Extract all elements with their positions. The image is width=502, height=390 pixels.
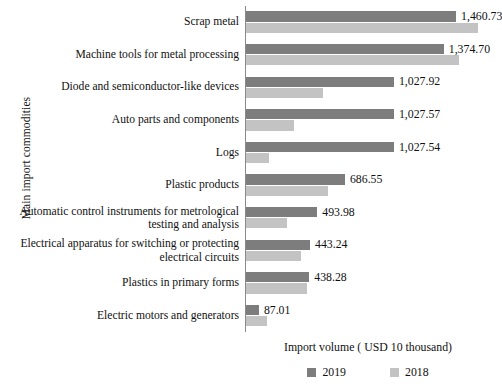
legend-item: 2018 [390, 366, 429, 378]
legend-label: 2018 [405, 366, 429, 378]
category-label: Auto parts and components [14, 113, 239, 126]
bar-group: 443.24 [246, 234, 490, 267]
x-axis-title: Import volume ( USD 10 thousand) [245, 340, 491, 355]
category-label: Electric motors and generators [14, 309, 239, 322]
chart-category-row: Plastics in primary forms438.28 [0, 267, 491, 300]
chart-category-row: Scrap metal1,460.73 [0, 6, 491, 39]
category-label: Logs [14, 146, 239, 159]
bar-2019 [246, 174, 345, 184]
chart-category-row: Machine tools for metal processing1,374.… [0, 39, 491, 72]
bar-group: 1,027.54 [246, 136, 490, 169]
bar-2018 [246, 88, 323, 98]
chart-category-row: Plastic products686.55 [0, 169, 491, 202]
bar-2018 [246, 283, 306, 293]
legend-swatch-icon [390, 368, 399, 377]
category-label: Diode and semiconductor-like devices [14, 81, 239, 94]
category-label: Machine tools for metal processing [14, 48, 239, 61]
bar-value-label: 1,460.73 [461, 9, 502, 24]
bar-group: 1,027.92 [246, 71, 490, 104]
bar-value-label: 1,027.57 [399, 107, 440, 122]
bar-2019 [246, 207, 317, 217]
bar-2018 [246, 153, 269, 163]
category-label: Electrical apparatus for switching or pr… [14, 237, 239, 264]
chart-category-row: Logs1,027.54 [0, 136, 491, 169]
bar-group: 686.55 [246, 169, 490, 202]
bar-2018 [246, 251, 301, 261]
bar-2018 [246, 120, 293, 130]
legend-item: 2019 [307, 366, 346, 378]
bar-2019 [246, 305, 258, 315]
chart-category-row: Electrical apparatus for switching or pr… [0, 234, 491, 267]
bar-value-label: 1,027.92 [399, 74, 440, 89]
bar-2019 [246, 272, 309, 282]
bar-value-label: 87.01 [264, 303, 291, 318]
plot-area: Scrap metal1,460.73Machine tools for met… [0, 0, 491, 332]
bar-2019 [246, 44, 443, 54]
category-label: Scrap metal [14, 16, 239, 29]
bar-value-label: 493.98 [322, 205, 354, 220]
chart-category-row: Diode and semiconductor-like devices1,02… [0, 71, 491, 104]
bar-group: 1,460.73 [246, 6, 490, 39]
bar-value-label: 686.55 [350, 172, 382, 187]
bar-value-label: 1,027.54 [399, 140, 440, 155]
bar-2018 [246, 186, 328, 196]
bar-2019 [246, 109, 394, 119]
bar-group: 438.28 [246, 267, 490, 300]
bar-2018 [246, 55, 458, 65]
bar-2018 [246, 218, 287, 228]
bar-value-label: 443.24 [315, 237, 347, 252]
category-label: Automatic control instruments for metrol… [14, 204, 239, 231]
bar-group: 493.98 [246, 202, 490, 235]
bar-value-label: 438.28 [314, 270, 346, 285]
chart-category-row: Auto parts and components1,027.57 [0, 104, 491, 137]
bar-value-label: 1,374.70 [449, 42, 490, 57]
bar-2019 [246, 142, 394, 152]
category-label: Plastic products [14, 179, 239, 192]
chart-legend: 20192018 [245, 366, 491, 378]
chart-category-row: Electric motors and generators87.01 [0, 299, 491, 332]
legend-label: 2019 [322, 366, 346, 378]
category-label: Plastics in primary forms [14, 276, 239, 289]
legend-swatch-icon [307, 368, 316, 377]
bar-group: 1,027.57 [246, 104, 490, 137]
chart-category-row: Automatic control instruments for metrol… [0, 202, 491, 235]
bar-2018 [246, 23, 478, 33]
bar-group: 1,374.70 [246, 39, 490, 72]
bar-2019 [246, 11, 456, 21]
bar-2019 [246, 240, 310, 250]
bar-group: 87.01 [246, 299, 490, 332]
bar-2019 [246, 77, 394, 87]
